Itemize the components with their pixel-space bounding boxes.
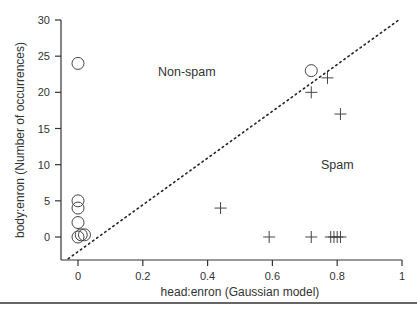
x-tick-label: 0.8 (330, 270, 345, 282)
non-spam-point (305, 65, 317, 77)
annotation-non-spam: Non-spam (158, 65, 216, 79)
non-spam-point (72, 195, 84, 207)
spam-point (334, 231, 346, 243)
spam-point (215, 202, 227, 214)
x-tick-label: 1 (399, 270, 405, 282)
spam-point (305, 231, 317, 243)
x-tick-label: 0.6 (265, 270, 280, 282)
non-spam-point (72, 57, 84, 69)
y-tick-label: 0 (44, 231, 50, 243)
y-tick-label: 10 (38, 159, 50, 171)
y-tick-label: 20 (38, 86, 50, 98)
x-tick-label: 0.2 (135, 270, 150, 282)
divider (0, 302, 417, 304)
spam-point (263, 231, 275, 243)
annotation-spam: Spam (321, 158, 354, 172)
spam-point (334, 108, 346, 120)
y-axis-title: body:enron (Number of occurrences) (13, 42, 27, 238)
y-tick-label: 15 (38, 123, 50, 135)
decision-boundary-line (68, 20, 398, 259)
y-tick-label: 30 (38, 14, 50, 26)
non-spam-point (72, 202, 84, 214)
x-tick-label: 0.4 (200, 270, 215, 282)
non-spam-point (78, 229, 90, 241)
annotations: Non-spam Spam (158, 65, 354, 172)
x-axis-title: head:enron (Gaussian model) (161, 285, 320, 299)
non-spam-point (72, 217, 84, 229)
non-spam-point (75, 229, 87, 241)
spam-point (305, 86, 317, 98)
y-tick-label: 25 (38, 50, 50, 62)
y-tick-label: 5 (44, 195, 50, 207)
x-tick-label: 0 (75, 270, 81, 282)
data-points (72, 57, 346, 243)
scatter-chart: 05101520253000.20.40.60.81 Non-spam Spam… (0, 0, 417, 300)
